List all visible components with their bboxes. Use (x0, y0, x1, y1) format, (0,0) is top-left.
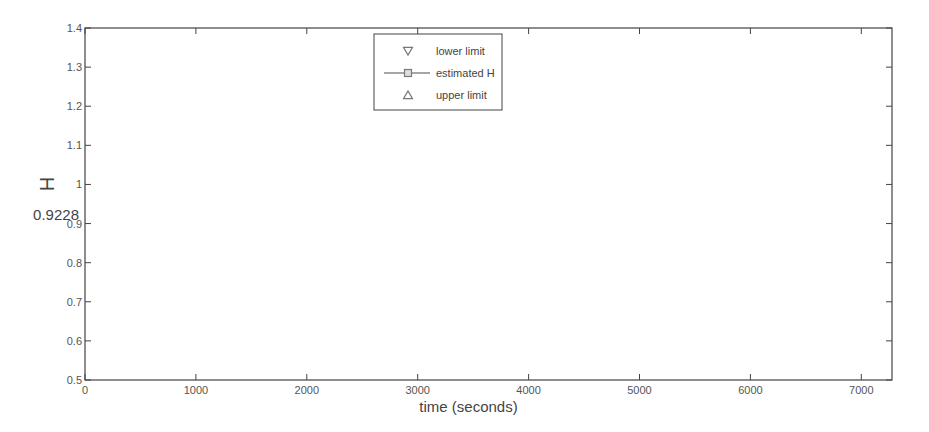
y-tick-label: 0.5 (67, 374, 82, 386)
x-tick-label: 0 (82, 384, 88, 396)
y-tick-label: 1.3 (67, 61, 82, 73)
x-tick-label: 7000 (849, 384, 873, 396)
chart: 0.50.60.70.80.911.11.21.31.4010002000300… (0, 0, 929, 432)
x-tick-label: 3000 (405, 384, 429, 396)
y-tick-label: 1.4 (67, 22, 82, 34)
y-tick-label: 0.6 (67, 335, 82, 347)
x-tick-label: 5000 (627, 384, 651, 396)
y-tick-label: 0.8 (67, 257, 82, 269)
x-tick-label: 4000 (516, 384, 540, 396)
legend-entry-1: estimated H (436, 67, 495, 79)
reference-value-label: 0.9228 (33, 206, 79, 223)
legend-entry-0: lower limit (436, 45, 485, 57)
y-tick-label: 1.1 (67, 139, 82, 151)
y-tick-label: 1 (76, 178, 82, 190)
legend-square-icon (405, 70, 412, 77)
x-tick-label: 1000 (184, 384, 208, 396)
y-tick-label: 0.7 (67, 296, 82, 308)
x-tick-label: 6000 (738, 384, 762, 396)
y-axis-label: H (36, 177, 58, 191)
legend-entry-2: upper limit (436, 89, 487, 101)
x-axis-label: time (seconds) (419, 398, 517, 415)
x-tick-label: 2000 (295, 384, 319, 396)
legend: lower limitestimated Hupper limit (374, 34, 502, 110)
y-tick-label: 1.2 (67, 100, 82, 112)
